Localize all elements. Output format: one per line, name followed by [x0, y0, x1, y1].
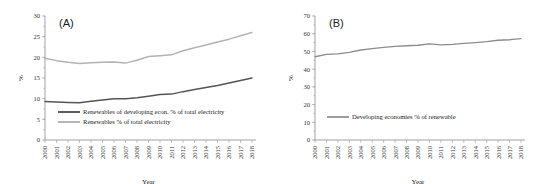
x-tick-label: 2012	[449, 146, 456, 159]
chart-panel-b: 0102030405060702000200120022003200420052…	[269, 0, 538, 184]
legend-label: Developing economies % of renewable	[352, 113, 456, 120]
x-tick-label: 2003	[346, 146, 353, 159]
x-tick-label: 2000	[311, 146, 318, 159]
x-tick-label: 2016	[495, 145, 502, 159]
x-tick-label: 2008	[403, 146, 410, 159]
x-tick-label: 2014	[202, 145, 209, 159]
x-tick-label: 2014	[472, 145, 479, 159]
x-tick-label: 2010	[156, 146, 163, 159]
y-tick-label: 60	[304, 30, 311, 37]
y-axis-title: %	[17, 75, 25, 81]
y-tick-label: 40	[304, 66, 311, 73]
y-tick-label: 20	[304, 101, 311, 108]
x-tick-label: 2013	[191, 146, 198, 159]
y-tick-label: 0	[37, 136, 40, 143]
y-tick-label: 70	[304, 12, 311, 19]
chart-panel-a: 0510152025302000200120022003200420052006…	[0, 0, 269, 184]
x-tick-label: 2005	[99, 146, 106, 159]
x-tick-label: 2009	[414, 146, 421, 159]
x-tick-label: 2007	[392, 145, 399, 159]
x-tick-label: 2018	[517, 146, 524, 159]
y-tick-label: 0	[307, 136, 310, 143]
x-tick-label: 2001	[323, 146, 330, 159]
legend-label: Renewables of developing econ. % of tota…	[83, 108, 225, 115]
x-tick-label: 2018	[248, 146, 255, 159]
y-tick-label: 50	[304, 48, 311, 55]
x-tick-label: 2017	[237, 145, 244, 159]
y-tick-label: 20	[34, 54, 41, 61]
x-tick-label: 2010	[426, 146, 433, 159]
x-tick-label: 2015	[214, 146, 221, 159]
x-tick-label: 2004	[357, 145, 364, 159]
x-tick-label: 2000	[41, 146, 48, 159]
x-tick-label: 2002	[64, 146, 71, 159]
x-tick-label: 2015	[483, 146, 490, 159]
panel-tag: (A)	[59, 17, 74, 29]
x-tick-label: 2009	[145, 146, 152, 159]
x-tick-label: 2003	[76, 146, 83, 159]
x-tick-label: 2012	[179, 146, 186, 159]
series-line	[315, 39, 521, 57]
series-line	[45, 78, 252, 103]
panel-tag: (B)	[329, 17, 344, 29]
chart-svg: 0102030405060702000200120022003200420052…	[269, 0, 538, 184]
x-tick-label: 2001	[53, 146, 60, 159]
x-tick-label: 2008	[133, 146, 140, 159]
x-tick-label: 2007	[122, 145, 129, 159]
x-axis-title: Year	[142, 178, 156, 184]
legend-label: Renewables % of total electricity	[83, 118, 171, 125]
x-tick-label: 2016	[225, 145, 232, 159]
x-tick-label: 2017	[506, 145, 513, 159]
chart-svg: 0510152025302000200120022003200420052006…	[0, 0, 269, 184]
series-line	[45, 33, 252, 64]
y-tick-label: 30	[34, 12, 41, 19]
x-tick-label: 2011	[437, 146, 444, 159]
y-tick-label: 25	[34, 33, 41, 40]
x-tick-label: 2006	[110, 145, 117, 159]
x-axis-title: Year	[412, 178, 426, 184]
y-tick-label: 5	[37, 116, 40, 123]
y-tick-label: 30	[304, 83, 311, 90]
x-tick-label: 2005	[369, 146, 376, 159]
y-tick-label: 10	[304, 119, 311, 126]
figure-container: 0510152025302000200120022003200420052006…	[0, 0, 539, 184]
y-tick-label: 15	[34, 74, 41, 81]
x-tick-label: 2011	[168, 146, 175, 159]
x-tick-label: 2002	[334, 146, 341, 159]
y-axis-title: %	[287, 75, 295, 81]
y-tick-label: 10	[34, 95, 41, 102]
x-tick-label: 2006	[380, 145, 387, 159]
x-tick-label: 2013	[460, 146, 467, 159]
x-tick-label: 2004	[87, 145, 94, 159]
